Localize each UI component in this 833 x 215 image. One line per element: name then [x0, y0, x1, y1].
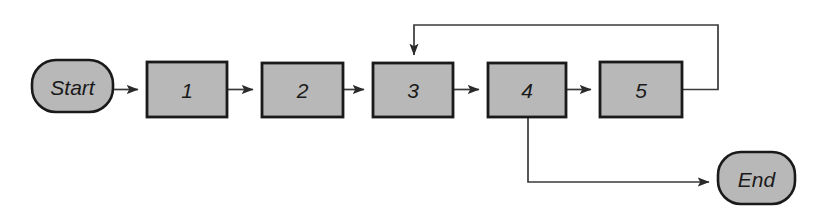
- node-end[interactable]: End: [718, 152, 795, 204]
- node-start[interactable]: Start: [32, 60, 113, 112]
- node-step-1[interactable]: 1: [147, 62, 227, 117]
- node-step-3-label: 3: [407, 79, 419, 102]
- node-step-4-label: 4: [521, 79, 533, 102]
- node-step-5-label: 5: [635, 79, 647, 102]
- node-step-4[interactable]: 4: [488, 63, 566, 117]
- flowchart-svg: Start 1 2 3 4 5: [0, 0, 833, 215]
- node-step-1-label: 1: [181, 79, 193, 102]
- node-start-label: Start: [50, 76, 96, 99]
- edge-4-to-end: [528, 117, 709, 182]
- node-step-3[interactable]: 3: [373, 63, 453, 117]
- flowchart-canvas: Start 1 2 3 4 5: [0, 0, 833, 215]
- node-step-2-label: 2: [296, 79, 309, 102]
- node-step-2[interactable]: 2: [262, 63, 343, 117]
- node-step-5[interactable]: 5: [600, 62, 682, 117]
- node-end-label: End: [738, 168, 777, 191]
